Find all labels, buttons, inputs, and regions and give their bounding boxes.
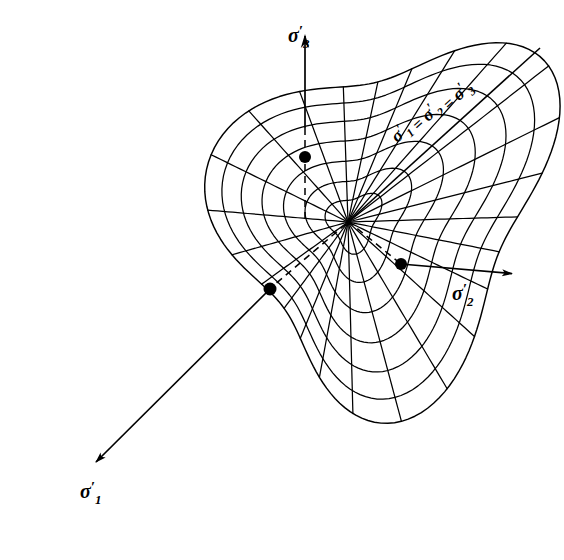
sigma-3-axis-label: σ′3 <box>288 23 310 51</box>
meridian-line <box>348 222 447 389</box>
intersection-point-sigma1 <box>264 283 277 296</box>
yield-surface-mesh <box>205 43 560 424</box>
hydrostatic-axis-line <box>348 48 540 222</box>
meridian-line <box>348 43 506 222</box>
meridian-line <box>348 222 401 421</box>
meridian-line <box>348 217 518 222</box>
sigma-1-axis-label: σ′1 <box>80 479 102 507</box>
meridian-line <box>343 87 348 222</box>
meridian-line <box>348 222 475 337</box>
yield-surface-figure: σ′3σ′2σ′1σ′1 = σ′2 = σ′3 <box>0 0 564 560</box>
sigma-2-axis-visible <box>401 264 512 274</box>
meridian-line <box>348 222 353 414</box>
meridian-line <box>348 173 542 222</box>
diagram-canvas: σ′3σ′2σ′1σ′1 = σ′2 = σ′3 <box>0 0 564 560</box>
sigma-2-axis-label: σ′2 <box>452 281 474 309</box>
meridian-line <box>348 69 412 222</box>
meridian-line <box>348 222 499 252</box>
intersection-point-sigma3 <box>299 151 311 163</box>
meridian-line <box>319 222 348 377</box>
svg-text:σ′2: σ′2 <box>452 281 474 309</box>
intersection-markers <box>264 151 408 296</box>
svg-text:σ′3: σ′3 <box>288 23 310 51</box>
svg-text:σ′1 = σ′2 = σ′3: σ′1 = σ′2 = σ′3 <box>386 68 479 156</box>
circumferential-ring <box>205 43 560 424</box>
sigma-1-axis-visible <box>96 289 270 462</box>
svg-text:σ′1: σ′1 <box>80 479 102 507</box>
hydrostatic-axis-label: σ′1 = σ′2 = σ′3 <box>386 68 479 156</box>
intersection-point-sigma2 <box>395 258 407 270</box>
